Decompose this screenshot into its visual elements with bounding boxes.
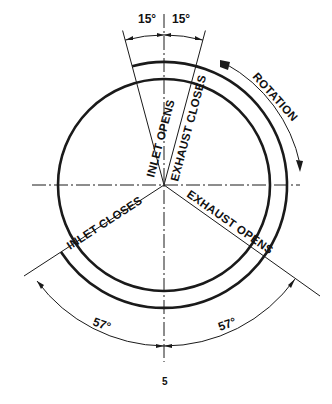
angle-label-top-right: 15°: [172, 12, 190, 26]
valve-timing-diagram: 15° 15° 57° 57° INLET OPENS EXHAUST CLOS…: [0, 0, 332, 404]
exhaust-closes-label: EXHAUST CLOSES: [168, 73, 208, 182]
rotation-arrowhead-icon: [296, 160, 303, 172]
arrowhead: [164, 344, 172, 348]
arrowhead: [157, 33, 164, 37]
rotation-tail-icon: [220, 60, 230, 70]
arrowhead: [156, 344, 164, 348]
arrowhead: [125, 36, 133, 40]
angle-label-bottom-right: 57°: [216, 314, 238, 333]
page-number: 5: [162, 376, 168, 387]
arrowhead: [195, 36, 203, 40]
rotation-label: ROTATION: [251, 70, 301, 123]
angle-label-bottom-left: 57°: [91, 315, 113, 334]
arrowhead: [164, 33, 171, 37]
inlet-closes-label: INLET CLOSES: [65, 194, 145, 252]
angle-label-top-left: 15°: [138, 12, 156, 26]
